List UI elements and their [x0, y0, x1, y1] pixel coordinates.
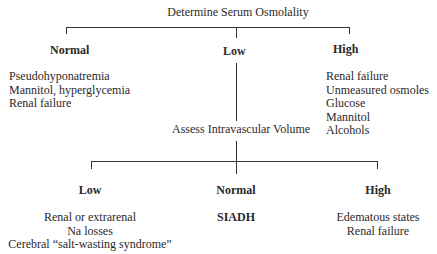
l2-normal-items: SIADH [206, 211, 266, 225]
l2-high-label: High [348, 184, 408, 198]
top-bracket-left [66, 27, 67, 34]
l2-high-items: Edematous states Renal failure [328, 211, 428, 238]
top-bracket-center [236, 27, 237, 38]
l2-low-items: Renal or extrarenal Na losses Cerebral “… [5, 211, 175, 252]
top-bracket-right [349, 27, 350, 34]
bottom-bracket-center [236, 141, 237, 174]
bottom-bracket-bar [91, 161, 378, 162]
bottom-bracket-right [377, 161, 378, 169]
l1-low-label: Low [223, 45, 246, 59]
bottom-bracket-left [91, 161, 92, 169]
l1-normal-items: Pseudohyponatremia Mannitol, hyperglycem… [9, 70, 130, 111]
top-bracket-bar [66, 27, 350, 28]
l1-high-items: Renal failure Unmeasured osmoles Glucose… [326, 70, 429, 138]
l2-normal-label: Normal [206, 184, 266, 198]
l2-low-label: Low [60, 184, 120, 198]
l1-high-label: High [333, 43, 358, 57]
root-node: Determine Serum Osmolality [118, 6, 358, 20]
l1-normal-label: Normal [50, 44, 89, 58]
assess-node: Assess Intravascular Volume [172, 123, 310, 137]
low-stem [236, 63, 237, 121]
